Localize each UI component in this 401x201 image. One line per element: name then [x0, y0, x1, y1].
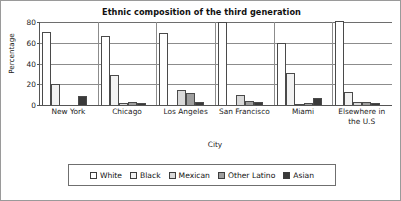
chart-figure: Ethnic composition of the third generati… — [0, 0, 401, 201]
bar — [51, 84, 60, 105]
bar — [335, 21, 344, 105]
bar — [236, 95, 245, 105]
chart-title: Ethnic composition of the third generati… — [1, 7, 401, 17]
bar — [277, 43, 286, 105]
legend-swatch-icon — [218, 172, 225, 179]
bar-group — [157, 22, 216, 105]
y-tick-mark — [37, 105, 40, 106]
x-tick-label: Elsewhere in the U.S — [332, 107, 391, 126]
bar — [362, 102, 371, 105]
legend-label: Asian — [293, 171, 314, 180]
bar-group — [333, 22, 392, 105]
legend-swatch-icon — [130, 172, 137, 179]
y-tick-label: 40 — [27, 59, 36, 68]
bar — [186, 93, 195, 105]
bar — [245, 101, 254, 105]
y-tick-label: 60 — [27, 38, 36, 47]
legend-label: White — [100, 171, 122, 180]
y-tick-label: 0 — [31, 101, 36, 110]
bar — [195, 102, 204, 105]
bar — [286, 73, 295, 105]
bar — [101, 36, 110, 106]
legend-swatch-icon — [90, 172, 97, 179]
plot-area: 020406080 — [39, 22, 392, 106]
legend-swatch-icon — [283, 172, 290, 179]
legend-item[interactable]: Other Latino — [218, 171, 275, 180]
legend-label: Mexican — [179, 171, 210, 180]
x-tick-label: Chicago — [98, 107, 157, 126]
y-tick-label: 20 — [27, 80, 36, 89]
legend-label: Black — [140, 171, 161, 180]
x-tick-label: Miami — [274, 107, 333, 126]
x-tick-labels: New YorkChicagoLos AngelesSan FranciscoM… — [39, 107, 391, 126]
legend-swatch-icon — [169, 172, 176, 179]
bar — [110, 75, 119, 105]
legend-item[interactable]: Black — [130, 171, 161, 180]
bar — [177, 90, 186, 105]
y-axis-label: Percentage — [7, 24, 16, 84]
chart-legend: WhiteBlackMexicanOther LatinoAsian — [68, 164, 336, 186]
bar — [304, 103, 313, 105]
bar — [313, 98, 322, 105]
legend-label: Other Latino — [228, 171, 275, 180]
bar-group — [216, 22, 275, 105]
bar — [128, 102, 137, 105]
bar — [254, 102, 263, 105]
bar-group — [275, 22, 334, 105]
y-tick-label: 80 — [27, 18, 36, 27]
bar — [137, 103, 146, 105]
legend-item[interactable]: Mexican — [169, 171, 210, 180]
bar — [42, 32, 51, 105]
bar — [119, 103, 128, 105]
bar — [295, 104, 304, 105]
x-tick-label: San Francisco — [215, 107, 274, 126]
bar — [371, 103, 380, 105]
bar — [353, 102, 362, 105]
x-tick-label: New York — [39, 107, 98, 126]
x-tick-label: Los Angeles — [156, 107, 215, 126]
bar — [218, 22, 227, 105]
bar — [159, 33, 168, 105]
legend-item[interactable]: White — [90, 171, 122, 180]
bar — [344, 92, 353, 105]
legend-item[interactable]: Asian — [283, 171, 314, 180]
bar — [78, 96, 87, 105]
bar-group — [40, 22, 99, 105]
bar-group — [99, 22, 158, 105]
x-axis-label: City — [39, 140, 391, 149]
bar-groups — [40, 22, 392, 105]
